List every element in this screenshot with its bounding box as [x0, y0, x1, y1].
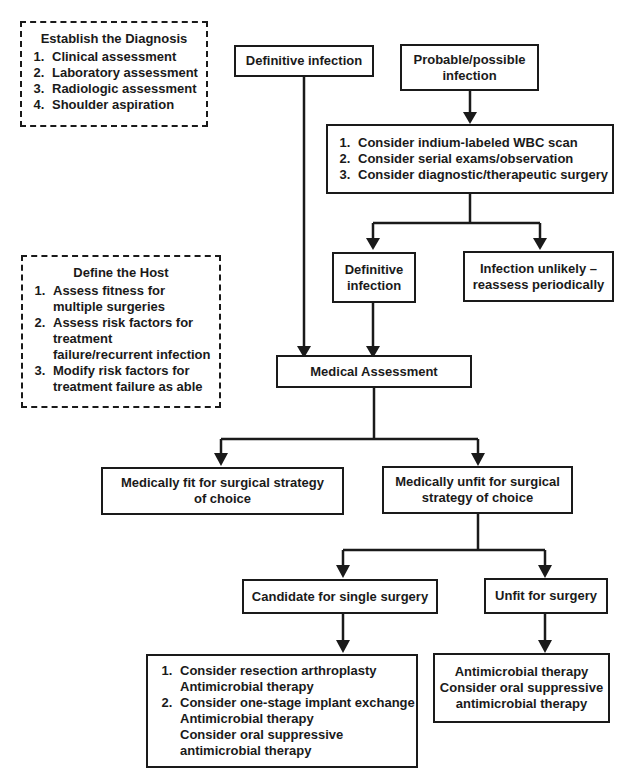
workup-node: Consider indium-labeled WBC scan Conside… [326, 124, 614, 194]
medically-fit-node: Medically fit for surgical strategy of c… [101, 467, 344, 515]
node-label: Infection unlikely – [480, 261, 597, 277]
list-item: Clinical assessment [48, 49, 198, 65]
diagnosis-list: Clinical assessment Laboratory assessmen… [30, 49, 198, 113]
option-label: Consider resection arthroplasty [180, 663, 415, 679]
arrow-head [214, 453, 228, 466]
node-label: of choice [194, 491, 251, 507]
option-detail: Antimicrobial therapy [180, 679, 415, 695]
node-label: infection [347, 278, 401, 294]
unfit-options-node: Antimicrobial therapy Consider oral supp… [433, 653, 610, 723]
note-title: Define the Host [31, 265, 211, 281]
list-item: Assess risk factors for treatment failur… [49, 315, 211, 363]
arrow-head [336, 640, 350, 653]
host-list: Assess fitness for multiple surgeries As… [31, 283, 211, 395]
node-label: Consider oral suppressive [440, 680, 603, 696]
node-label: strategy of choice [422, 490, 533, 506]
definitive-infection-confirmed-node: Definitive infection [332, 252, 416, 303]
arrow-head [366, 238, 380, 250]
list-item: Assess fitness for multiple surgeries [49, 283, 211, 315]
node-label: infection [442, 68, 496, 84]
arrow-head [463, 112, 477, 124]
node-label: reassess periodically [473, 277, 605, 293]
node-label: Definitive infection [246, 53, 362, 69]
node-label: antimicrobial therapy [456, 696, 587, 712]
arrow-head [471, 453, 485, 466]
single-surgery-candidate-node: Candidate for single surgery [242, 579, 438, 614]
option-detail: antimicrobial therapy [180, 743, 415, 759]
arrow-head [538, 565, 552, 578]
arrow-head [533, 238, 547, 250]
list-item: Laboratory assessment [48, 65, 198, 81]
node-label: Unfit for surgery [495, 588, 597, 604]
probable-infection-node: Probable/possible infection [400, 44, 539, 91]
arrow-head [538, 640, 552, 653]
unfit-for-surgery-node: Unfit for surgery [484, 578, 608, 614]
option-detail: Antimicrobial therapy [180, 711, 415, 727]
node-label: Probable/possible [414, 52, 526, 68]
node-label: Medical Assessment [310, 364, 437, 380]
node-label: Antimicrobial therapy [455, 664, 589, 680]
list-item: Modify risk factors for treatment failur… [49, 363, 211, 395]
list-item: Consider resection arthroplasty Antimicr… [176, 663, 415, 695]
infection-unlikely-node: Infection unlikely – reassess periodical… [463, 251, 614, 302]
medical-assessment-node: Medical Assessment [276, 355, 472, 388]
surgery-options-list: Consider resection arthroplasty Antimicr… [158, 663, 415, 759]
node-label: Definitive [345, 262, 404, 278]
define-host-note: Define the Host Assess fitness for multi… [21, 255, 221, 408]
establish-diagnosis-note: Establish the Diagnosis Clinical assessm… [20, 21, 208, 127]
node-label: Medically unfit for surgical [395, 474, 560, 490]
note-title: Establish the Diagnosis [30, 31, 198, 47]
list-item: Consider one-stage implant exchange Anti… [176, 695, 415, 759]
single-surgery-options-node: Consider resection arthroplasty Antimicr… [146, 654, 418, 768]
option-label: Consider one-stage implant exchange [180, 695, 415, 711]
list-item: Shoulder aspiration [48, 97, 198, 113]
list-item: Consider serial exams/observation [354, 151, 608, 167]
definitive-infection-node: Definitive infection [234, 45, 374, 77]
arrow-head [336, 565, 350, 578]
list-item: Consider indium-labeled WBC scan [354, 135, 608, 151]
list-item: Consider diagnostic/therapeutic surgery [354, 167, 608, 183]
option-detail: Consider oral suppressive [180, 727, 415, 743]
node-label: Medically fit for surgical strategy [121, 475, 324, 491]
workup-list: Consider indium-labeled WBC scan Conside… [336, 135, 608, 183]
medically-unfit-node: Medically unfit for surgical strategy of… [382, 466, 573, 514]
list-item: Radiologic assessment [48, 81, 198, 97]
node-label: Candidate for single surgery [252, 589, 428, 605]
